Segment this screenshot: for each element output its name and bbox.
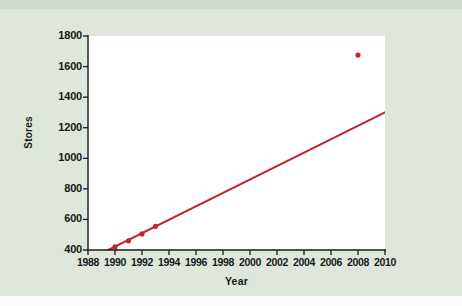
chart-figure: 40060080010001200140016001800 Stores 198…	[0, 0, 462, 306]
x-axis-title: Year	[88, 275, 385, 287]
y-tick-label: 1400	[38, 91, 82, 102]
y-tick-label: 600	[38, 213, 82, 224]
x-axis-tick-labels: 1988199019921994199619982000200220042006…	[0, 256, 462, 272]
y-axis-title: Stores	[23, 104, 34, 162]
x-tick-label: 2010	[365, 256, 405, 268]
page-bottom-band	[0, 296, 462, 306]
y-tick-label: 800	[38, 183, 82, 194]
chart-plot-area: 40060080010001200140016001800 Stores 198…	[0, 0, 462, 306]
y-tick-label: 1600	[38, 61, 82, 72]
y-tick-label: 1000	[38, 152, 82, 163]
y-tick-label: 1800	[38, 30, 82, 41]
y-tick-label: 1200	[38, 122, 82, 133]
y-tick-label: 400	[38, 244, 82, 255]
